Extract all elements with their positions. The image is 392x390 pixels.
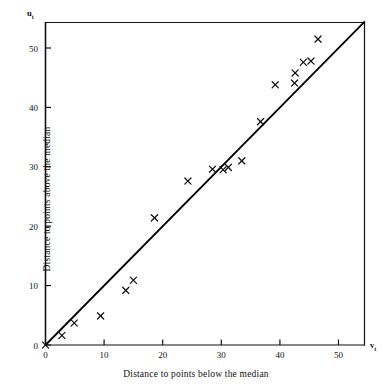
scatter-point — [71, 320, 77, 326]
scatter-point — [209, 166, 215, 172]
scatter-point — [257, 119, 263, 125]
y-tick-label: 10 — [29, 281, 39, 291]
y-tick-label: 40 — [29, 103, 39, 113]
scatter-point — [123, 287, 129, 293]
y-axis-title: Distance to points above the median — [42, 49, 52, 349]
x-tick-label: 10 — [100, 350, 110, 360]
y-tick-label: 30 — [29, 162, 39, 172]
reference-line — [46, 21, 365, 345]
x-tick-label: 50 — [334, 350, 344, 360]
scatter-point — [315, 36, 321, 42]
scatter-point — [291, 80, 297, 86]
scatter-point — [292, 70, 298, 76]
y-axis-tick-labels: 0 10 20 30 40 50 — [29, 44, 39, 351]
reference-line-segment — [46, 21, 365, 345]
scatter-point — [97, 313, 103, 319]
scatter-point — [300, 59, 306, 65]
scatter-plot-figure: 0 10 20 30 40 50 0 10 20 30 40 50 — [0, 0, 392, 390]
x-axis-tick-labels: 0 10 20 30 40 50 — [43, 350, 343, 360]
y-tick-label: 20 — [29, 222, 39, 232]
scatter-point — [239, 158, 245, 164]
y-tick-label: 0 — [34, 341, 39, 351]
x-tick-label: 20 — [158, 350, 168, 360]
x-tick-label: 30 — [217, 350, 227, 360]
x-axis-ticks — [46, 340, 339, 346]
scatter-point — [308, 58, 314, 64]
scatter-point — [130, 277, 136, 283]
x-tick-label: 40 — [275, 350, 285, 360]
x-variable-symbol: vt — [370, 340, 376, 352]
plot-canvas: 0 10 20 30 40 50 0 10 20 30 40 50 — [0, 0, 392, 390]
scatter-point — [185, 178, 191, 184]
x-variable-subscript: t — [374, 346, 376, 352]
y-tick-label: 50 — [29, 44, 39, 54]
x-tick-label: 0 — [43, 350, 48, 360]
scatter-series — [42, 36, 321, 348]
scatter-point — [272, 82, 278, 88]
y-variable-symbol: ut — [27, 8, 34, 20]
scatter-point — [151, 215, 157, 221]
x-axis-title: Distance to points below the median — [0, 369, 392, 379]
y-variable-subscript: t — [32, 14, 34, 20]
scatter-point — [59, 332, 65, 338]
